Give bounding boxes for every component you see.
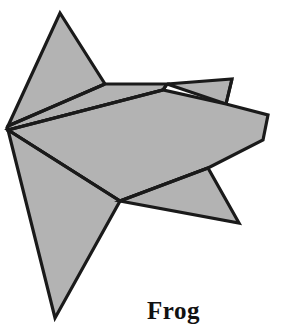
origami-frog-figure: Frog [0, 0, 285, 334]
origami-diagram-svg [0, 0, 285, 334]
figure-caption: Frog [0, 297, 285, 325]
